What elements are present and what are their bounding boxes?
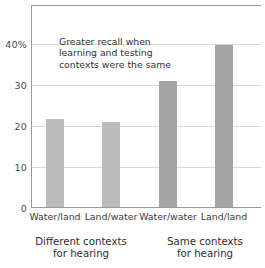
chart-annotation: Greater recall when learning and testing…	[59, 36, 209, 70]
group-label-different-contexts: Different contexts for hearing	[16, 236, 146, 261]
group-label-same-contexts: Same contexts for hearing	[140, 236, 265, 261]
bar-chart-figure: 40% 30 20 10 0 Greater recall when learn…	[0, 0, 265, 268]
bar-water-land	[46, 119, 64, 207]
bar-water-water	[159, 81, 177, 207]
x-tick-label-land-land: Land/land	[191, 211, 257, 222]
bar-land-water	[102, 122, 120, 207]
bar-land-land	[215, 45, 233, 207]
